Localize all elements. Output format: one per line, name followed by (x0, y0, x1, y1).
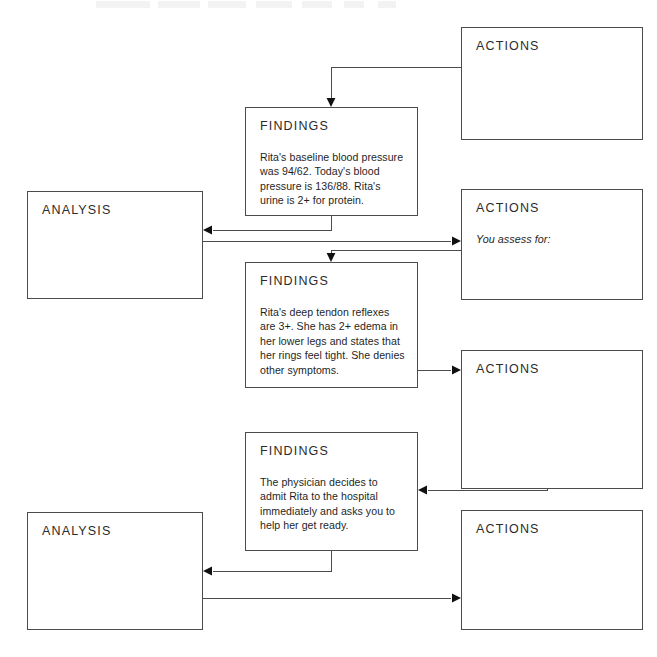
node-title: FINDINGS (260, 444, 329, 458)
node-findings-3[interactable]: FINDINGS The physician decides to admit … (245, 432, 418, 551)
page-edge-notch (0, 240, 7, 262)
node-analysis-1[interactable]: ANALYSIS (27, 191, 203, 299)
connector-actions1-to-findings1 (331, 67, 461, 100)
node-actions-1[interactable]: ACTIONS (461, 27, 643, 140)
diagram-canvas: ACTIONS FINDINGS Rita's baseline blood p… (0, 0, 657, 657)
connector-actions3-to-findings3 (428, 489, 547, 490)
node-title: ACTIONS (476, 201, 540, 215)
node-body: Rita's baseline blood pressure was 94/62… (260, 150, 405, 208)
arrowhead-analysis2-to-actions4 (452, 594, 461, 603)
connector-findings1-to-analysis1 (213, 216, 331, 230)
node-actions-2[interactable]: ACTIONS You assess for: (461, 189, 643, 300)
node-body: You assess for: (476, 232, 630, 246)
node-body: Rita's deep tendon reflexes are 3+. She … (260, 305, 405, 377)
arrowhead-actions3-to-findings3 (418, 486, 427, 495)
arrowhead-findings2-to-actions3 (452, 366, 461, 375)
node-actions-4[interactable]: ACTIONS (461, 510, 643, 630)
connector-findings3-to-analysis2 (213, 551, 331, 571)
arrowhead-actions1-to-findings1 (327, 98, 336, 107)
arrowhead-findings3-to-analysis2 (203, 567, 212, 576)
page-scan-artifact-top (96, 1, 396, 8)
node-body: The physician decides to admit Rita to t… (260, 475, 405, 533)
arrowhead-analysis1-to-actions2 (452, 237, 461, 246)
node-findings-1[interactable]: FINDINGS Rita's baseline blood pressure … (245, 107, 418, 216)
connector-actions2-to-findings2 (331, 250, 461, 255)
node-actions-3[interactable]: ACTIONS (461, 350, 643, 489)
node-title: FINDINGS (260, 274, 329, 288)
arrowhead-actions2-to-findings2 (327, 253, 336, 262)
node-title: FINDINGS (260, 119, 329, 133)
node-findings-2[interactable]: FINDINGS Rita's deep tendon reflexes are… (245, 262, 418, 388)
node-analysis-2[interactable]: ANALYSIS (27, 512, 203, 630)
node-title: ACTIONS (476, 522, 540, 536)
node-title: ANALYSIS (42, 203, 111, 217)
node-title: ANALYSIS (42, 524, 111, 538)
node-title: ACTIONS (476, 39, 540, 53)
node-title: ACTIONS (476, 362, 540, 376)
arrowhead-findings1-to-analysis1 (203, 226, 212, 235)
